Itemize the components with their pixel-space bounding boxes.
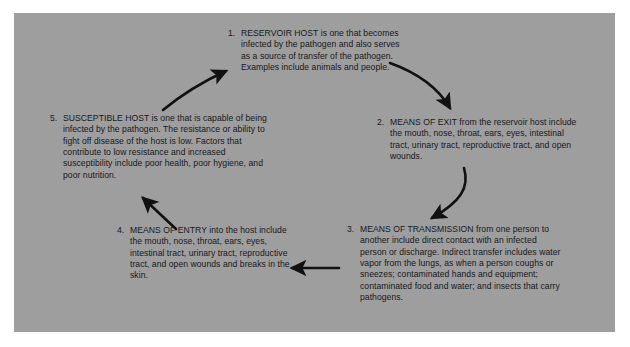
step-number-1: 1.: [228, 28, 241, 39]
step-means-of-transmission: 3. MEANS OF TRANSMISSION from one person…: [347, 224, 565, 303]
step-susceptible-host: 5. SUSCEPTIBLE HOST is one that is capab…: [50, 113, 268, 181]
step-number-3: 3.: [347, 224, 360, 235]
step-text-2: MEANS OF EXIT from the reservoir host in…: [390, 117, 579, 162]
step-means-of-entry: 4. MEANS OF ENTRY into the host include …: [117, 225, 299, 282]
step-number-2: 2.: [377, 117, 390, 128]
step-text-3: MEANS OF TRANSMISSION from one person to…: [360, 224, 565, 303]
step-means-of-exit: 2. MEANS OF EXIT from the reservoir host…: [377, 117, 579, 162]
step-number-5: 5.: [50, 113, 63, 124]
step-text-5: SUSCEPTIBLE HOST is one that is capable …: [63, 113, 268, 181]
step-reservoir-host: 1. RESERVOIR HOST is one that becomes in…: [228, 28, 400, 73]
step-number-4: 4.: [117, 225, 130, 236]
step-text-1: RESERVOIR HOST is one that becomes infec…: [241, 28, 400, 73]
step-text-4: MEANS OF ENTRY into the host include the…: [130, 225, 299, 282]
chain-of-infection-figure: 1. RESERVOIR HOST is one that becomes in…: [0, 0, 630, 347]
